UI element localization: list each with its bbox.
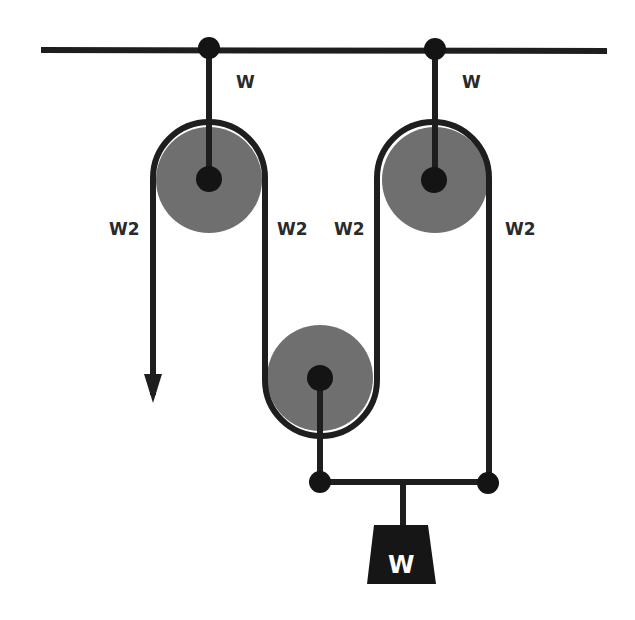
left-pulley-axle [196, 166, 222, 192]
pulley-diagram [0, 0, 635, 620]
left-ceiling-pin [198, 37, 220, 59]
segment-4-tension-label: W2 [505, 221, 536, 238]
weight-label: W [388, 553, 414, 577]
bar-right-pin [477, 472, 499, 494]
segment-3-tension-label: W2 [334, 221, 365, 238]
right-pulley-axle [421, 167, 447, 193]
arrow-down-icon [144, 374, 162, 403]
bar-left-pin [309, 471, 331, 493]
movable-pulley-axle [307, 365, 333, 391]
ceiling-line [41, 50, 607, 51]
right-ceiling-pin [424, 38, 446, 60]
segment-2-tension-label: W2 [277, 221, 308, 238]
left-anchor-tension-label: W [236, 74, 255, 91]
free-end-tension-label: W2 [109, 221, 140, 238]
right-anchor-tension-label: W [462, 74, 481, 91]
